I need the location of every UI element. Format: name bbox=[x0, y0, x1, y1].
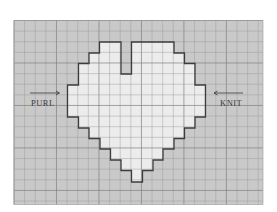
knit-label: KNIT bbox=[220, 98, 242, 108]
purl-label: PURL bbox=[31, 98, 55, 108]
